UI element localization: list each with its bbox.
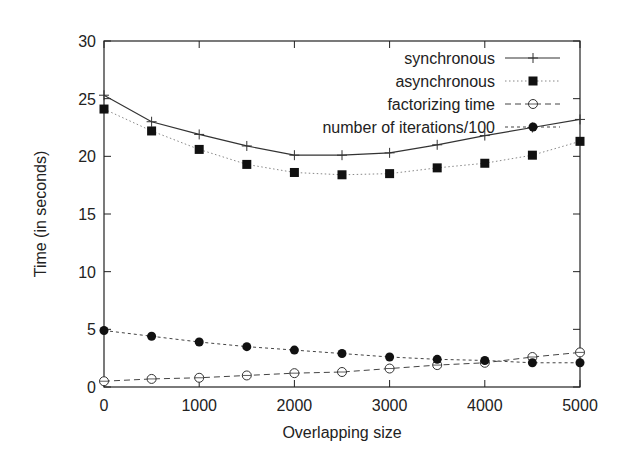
y-tick-label: 30 — [78, 33, 96, 50]
legend-item: asynchronous — [395, 73, 560, 90]
square-marker-icon — [242, 160, 251, 169]
y-axis: 051015202530 — [78, 33, 580, 396]
line-chart: 051015202530 010002000300040005000 Overl… — [0, 0, 632, 470]
y-tick-label: 25 — [78, 91, 96, 108]
y-tick-label: 15 — [78, 206, 96, 223]
x-tick-label: 1000 — [181, 397, 217, 414]
square-marker-icon — [195, 145, 204, 154]
x-tick-label: 2000 — [277, 397, 313, 414]
square-marker-icon — [576, 137, 585, 146]
y-tick-label: 5 — [87, 321, 96, 338]
filled-circle-marker-icon — [290, 346, 299, 355]
legend-label: synchronous — [404, 50, 495, 67]
plot-frame — [104, 41, 580, 387]
legend-label: number of iterations/100 — [322, 119, 495, 136]
square-marker-icon — [480, 159, 489, 168]
filled-circle-marker-icon — [385, 353, 394, 362]
square-marker-icon — [147, 126, 156, 135]
x-axis: 010002000300040005000 — [100, 41, 598, 414]
legend-label: asynchronous — [395, 73, 495, 90]
filled-circle-marker-icon — [433, 355, 442, 364]
legend-item: number of iterations/100 — [322, 119, 560, 136]
x-tick-label: 0 — [100, 397, 109, 414]
x-tick-label: 3000 — [372, 397, 408, 414]
series-asynchronous — [100, 105, 585, 180]
square-marker-icon — [528, 151, 537, 160]
filled-circle-marker-icon — [147, 332, 156, 341]
square-marker-icon — [100, 105, 109, 114]
filled-circle-marker-icon — [100, 326, 109, 335]
y-tick-label: 20 — [78, 148, 96, 165]
legend-label: factorizing time — [387, 96, 495, 113]
square-marker-icon — [385, 169, 394, 178]
x-tick-label: 5000 — [562, 397, 598, 414]
filled-circle-marker-icon — [528, 358, 537, 367]
filled-circle-marker-icon — [242, 342, 251, 351]
filled-circle-marker-icon — [480, 356, 489, 365]
filled-circle-marker-icon — [195, 338, 204, 347]
filled-circle-marker-icon — [529, 123, 538, 132]
legend-item: synchronous — [404, 50, 560, 67]
filled-circle-marker-icon — [576, 358, 585, 367]
x-tick-label: 4000 — [467, 397, 503, 414]
square-marker-icon — [529, 77, 538, 86]
series-number-of-iterations-100 — [100, 326, 585, 367]
y-tick-label: 0 — [87, 379, 96, 396]
square-marker-icon — [433, 163, 442, 172]
square-marker-icon — [338, 170, 347, 179]
filled-circle-marker-icon — [338, 349, 347, 358]
y-tick-label: 10 — [78, 264, 96, 281]
y-axis-label: Time (in seconds) — [32, 151, 49, 278]
square-marker-icon — [290, 168, 299, 177]
x-axis-label: Overlapping size — [282, 424, 401, 441]
legend: synchronousasynchronousfactorizing timen… — [322, 50, 560, 136]
legend-item: factorizing time — [387, 96, 560, 113]
